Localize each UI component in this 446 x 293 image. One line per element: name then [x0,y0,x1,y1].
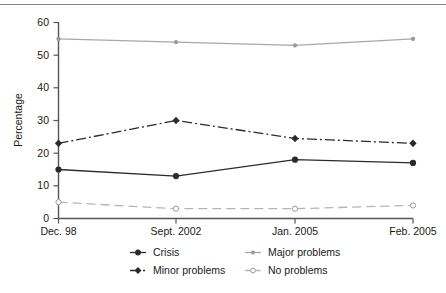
chart-figure: 0 10 20 30 40 50 60 Percentage Dec. 98 S… [0,0,446,293]
legend-item-major-problems[interactable]: Major problems [245,246,340,258]
data-point [173,173,179,179]
data-point [410,160,416,166]
legend-marker-minor-problems [135,267,142,274]
x-tick-label-dec98: Dec. 98 [40,225,76,237]
series-no-problems [56,200,416,212]
data-point [411,37,415,41]
legend-marker-crisis [135,250,141,256]
legend-item-minor-problems[interactable]: Minor problems [130,264,225,276]
series-crisis [55,157,416,180]
series-line-major-problems [59,39,414,46]
data-point [174,40,178,44]
y-tick-label-50: 50 [37,49,49,61]
y-tick-label-0: 0 [43,212,49,224]
x-tick-label-sept2002: Sept. 2002 [151,225,202,237]
top-rule [0,4,446,5]
data-point [293,43,297,47]
legend-marker-major-problems [251,250,255,254]
series-markers-minor-problems [55,117,417,147]
data-point [172,117,179,125]
data-point [56,37,60,41]
legend-marker-no-problems [251,268,256,273]
data-point [409,140,416,148]
data-point [292,157,298,163]
legend-label-minor-problems: Minor problems [153,264,225,276]
legend-item-no-problems[interactable]: No problems [245,264,328,276]
y-axis-title: Percentage [12,93,24,147]
series-line-minor-problems [59,121,414,144]
series-markers-no-problems [56,200,416,212]
y-tick-label-10: 10 [37,179,49,191]
x-tick-label-feb2005: Feb. 2005 [389,225,436,237]
series-line-crisis [59,160,414,176]
y-ticks [54,23,59,219]
legend-item-crisis[interactable]: Crisis [130,246,179,258]
x-ticks [59,219,414,224]
data-point [55,166,61,172]
y-tick-label-30: 30 [37,114,49,126]
data-point [291,135,298,143]
series-minor-problems [55,117,417,147]
y-tick-label-20: 20 [37,147,49,159]
series-major-problems [56,37,415,48]
legend-label-crisis: Crisis [153,246,179,258]
legend-label-no-problems: No problems [268,264,328,276]
chart-legend: Crisis Minor problems Major problems No … [130,246,340,276]
data-point [410,203,415,208]
y-tick-label-40: 40 [37,81,49,93]
series-line-no-problems [59,202,414,209]
x-tick-label-jan2005: Jan. 2005 [272,225,318,237]
line-chart: 0 10 20 30 40 50 60 Percentage Dec. 98 S… [0,0,446,293]
y-tick-label-60: 60 [37,16,49,28]
data-point [292,206,297,211]
data-point [55,140,62,148]
data-point [173,206,178,211]
data-point [56,200,61,205]
legend-label-major-problems: Major problems [268,246,340,258]
